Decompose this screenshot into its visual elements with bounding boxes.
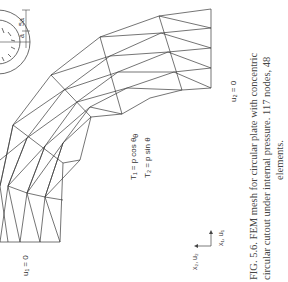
- bc-u2-label: u₂ = 0: [229, 80, 238, 102]
- caption-line-3: elements.: [274, 140, 285, 180]
- traction-1-label: T₁ = p cos θ: [129, 137, 138, 180]
- bc-u1-label: u₁ = 0: [21, 255, 30, 276]
- axes-icon: [194, 230, 213, 248]
- theta-label: θ: [131, 133, 140, 138]
- fem-mesh-figure: a 5a: [0, 0, 288, 282]
- traction-2-label: T₂ = p sin θ: [143, 137, 152, 178]
- inset-plate-diagram: a 5a: [0, 10, 30, 74]
- pressure-arrows-icon: [2, 28, 15, 61]
- axis-x2-label: x₂, u₂: [191, 253, 198, 270]
- inset-dim-a: a: [18, 34, 25, 38]
- fem-mesh: [0, 9, 211, 242]
- axis-x1-label: x₁, u₁: [217, 229, 224, 246]
- inset-dim-5a: 5a: [18, 18, 25, 26]
- caption-line-2: circular cutout under internal pressure.…: [261, 57, 272, 280]
- caption-line-1: FIG. 5.6. FEM mesh for circular plate wi…: [248, 53, 259, 280]
